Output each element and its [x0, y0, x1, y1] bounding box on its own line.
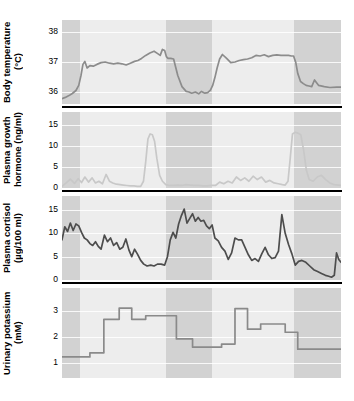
- y-tick-label: 1: [40, 358, 58, 367]
- data-trace-urinary-potassium: [62, 288, 341, 378]
- panel-separator-rule: [62, 106, 342, 108]
- y-tick-label: 15: [40, 205, 58, 214]
- plot-area-body-temperature: [62, 20, 341, 104]
- y-tick-label: 15: [40, 120, 58, 129]
- axis-label-urinary-potassium: Urinary potassium (mM): [2, 288, 36, 378]
- panel-separator-rule: [62, 190, 342, 192]
- plot-area-urinary-potassium: [62, 288, 341, 378]
- plot-area-plasma-cortisol: [62, 196, 341, 280]
- y-tick-label: 36: [40, 87, 58, 96]
- y-tick-label: 5: [40, 252, 58, 261]
- panel-urinary-potassium: Urinary potassium (mM) 321: [0, 288, 354, 378]
- panel-plasma-cortisol: Plasma cortisol (µg/100 ml) 151050: [0, 196, 354, 280]
- y-tick-label: 10: [40, 141, 58, 150]
- data-trace-plasma-cortisol: [62, 196, 341, 280]
- figure-root: Lights on Lights off Body temperature (°…: [0, 0, 354, 401]
- y-tick-label: 5: [40, 162, 58, 171]
- panel-plasma-growth-hormone: Plasma growth hormone (ng/ml) 151050: [0, 112, 354, 188]
- data-trace-body-temperature: [62, 20, 341, 104]
- y-tick-label: 0: [40, 183, 58, 192]
- panel-separator-rule: [62, 282, 342, 284]
- axis-label-plasma-growth-hormone: Plasma growth hormone (ng/ml): [2, 112, 36, 188]
- y-tick-label: 3: [40, 306, 58, 315]
- y-tick-label: 0: [40, 275, 58, 284]
- axis-label-plasma-cortisol: Plasma cortisol (µg/100 ml): [2, 196, 36, 280]
- axis-label-body-temperature: Body temperature (°C): [2, 20, 36, 104]
- y-tick-label: 2: [40, 332, 58, 341]
- y-tick-label: 10: [40, 228, 58, 237]
- y-tick-label: 37: [40, 57, 58, 66]
- y-tick-label: 38: [40, 27, 58, 36]
- plot-area-plasma-growth-hormone: [62, 112, 341, 188]
- data-trace-plasma-growth-hormone: [62, 112, 341, 188]
- panel-body-temperature: Body temperature (°C) 383736: [0, 20, 354, 104]
